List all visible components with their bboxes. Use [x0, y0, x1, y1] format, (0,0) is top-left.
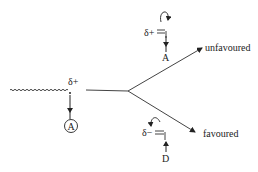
- lower-fragment: δ− D: [142, 118, 169, 164]
- curly-arrow-down: [151, 118, 160, 126]
- circled-group-label: A: [68, 121, 76, 132]
- reaction-diagram: δ+ A unfavoured favoured δ+ A: [0, 0, 258, 172]
- upper-group-label: A: [162, 52, 170, 63]
- curly-arrow-up: [161, 12, 169, 22]
- lower-group-label: D: [162, 153, 169, 164]
- outcome-unfavoured: unfavoured: [205, 42, 251, 53]
- left-charge-label: δ+: [68, 76, 79, 87]
- lower-charge-label: δ−: [142, 127, 153, 138]
- wavy-bond: [10, 89, 68, 91]
- branch-down-arrow: [128, 91, 195, 132]
- left-fragment: δ+ A: [10, 76, 79, 133]
- radical-dot: [69, 92, 71, 94]
- outcome-favoured: favoured: [203, 128, 239, 139]
- upper-fragment: δ+ A: [144, 12, 170, 63]
- upper-charge-label: δ+: [144, 27, 155, 38]
- stem-line: [86, 90, 128, 91]
